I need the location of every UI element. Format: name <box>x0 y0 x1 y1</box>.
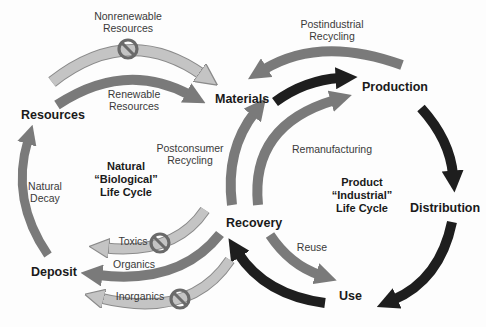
node-use: Use <box>339 289 362 303</box>
arrow-postindustrial-recycling <box>263 51 402 70</box>
arrow-postconsumer-recycling <box>231 112 255 205</box>
flow-label-postconsumer: Postconsumer Recycling <box>148 142 232 167</box>
flow-label-reuse: Reuse <box>292 241 332 253</box>
arrow-distribution-to-use <box>393 222 452 300</box>
node-deposit: Deposit <box>31 265 77 279</box>
node-distribution: Distribution <box>410 201 480 215</box>
flow-label-organics: Organics <box>104 258 164 270</box>
flow-label-renewable: Renewable Resources <box>99 88 169 113</box>
node-materials: Materials <box>215 92 269 106</box>
arrow-use-to-recovery <box>238 253 325 303</box>
flow-label-postindustrial: Postindustrial Recycling <box>287 18 377 43</box>
flow-label-toxics: Toxics <box>110 235 156 247</box>
flow-label-remanufacturing: Remanufacturing <box>284 143 380 155</box>
flow-label-natural-decay: Natural Decay <box>22 180 68 205</box>
node-production: Production <box>362 80 428 94</box>
product-industrial-life-cycle-label: Product “Industrial” Life Cycle <box>322 176 402 216</box>
life-cycle-diagram: Resources Materials Production Distribut… <box>0 0 486 327</box>
flow-label-inorganics: Inorganics <box>108 290 172 302</box>
flow-label-nonrenewable: Nonrenewable Resources <box>88 10 168 35</box>
node-resources: Resources <box>21 108 85 122</box>
arrow-production-to-distribution <box>421 108 453 175</box>
node-recovery: Recovery <box>226 216 282 230</box>
